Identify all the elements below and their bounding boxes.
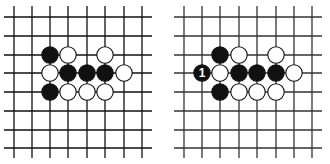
white-stone [268, 84, 284, 100]
white-stone [231, 84, 247, 100]
go-boards-canvas: 1 [0, 0, 330, 164]
black-stone [212, 47, 228, 63]
go-diagram: 1 [0, 0, 330, 164]
white-stone [97, 47, 113, 63]
white-stone [249, 84, 265, 100]
black-stone [42, 84, 58, 100]
go-board-before [4, 6, 152, 158]
black-stone [268, 65, 284, 81]
white-stone [42, 65, 58, 81]
black-stone [97, 65, 113, 81]
white-stone [97, 84, 113, 100]
black-stone [212, 84, 228, 100]
black-stone [42, 47, 58, 63]
white-stone [268, 47, 284, 63]
white-stone [60, 84, 76, 100]
white-stone [79, 84, 95, 100]
white-stone [116, 65, 132, 81]
white-stone [231, 47, 247, 63]
black-stone [231, 65, 247, 81]
black-stone [249, 65, 265, 81]
black-stone [79, 65, 95, 81]
white-stone [212, 65, 228, 81]
move-number-label: 1 [199, 66, 206, 80]
go-board-after-move-1: 1 [174, 6, 322, 158]
white-stone [286, 65, 302, 81]
black-stone [60, 65, 76, 81]
white-stone [60, 47, 76, 63]
